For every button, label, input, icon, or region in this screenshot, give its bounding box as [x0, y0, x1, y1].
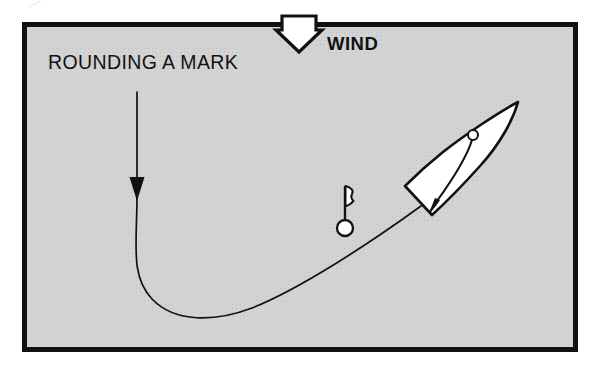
mark-buoy-body	[337, 220, 353, 236]
mark-flag	[346, 186, 354, 206]
panel-background	[25, 25, 576, 350]
wind-label: WIND	[327, 33, 378, 54]
maneuver-title: ROUNDING A MARK	[48, 51, 238, 73]
rounding-a-mark-figure: ROUNDING A MARK WIND	[0, 0, 600, 370]
boat-mast	[468, 130, 478, 140]
diagram-canvas: ROUNDING A MARK WIND	[0, 0, 600, 370]
